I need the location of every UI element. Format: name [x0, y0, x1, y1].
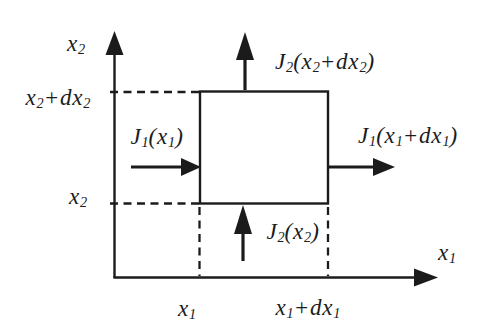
flux-label-j2-out: J2(x2+dx2) [275, 50, 375, 73]
x2-axis [106, 31, 124, 278]
flux-arrow-j1-in-head-icon [181, 158, 201, 176]
x2-axis-label: x2 [67, 32, 85, 55]
x1-axis-arrowhead-icon [414, 269, 438, 287]
flux-arrow-j2-out-head-icon [236, 32, 254, 60]
tick-label-x2-plus-dx2: x2+dx2 [26, 86, 91, 109]
flux-arrow-j1-in [131, 158, 201, 176]
flux-arrow-j2-in [234, 205, 252, 261]
flux-arrow-j1-out-head-icon [373, 158, 395, 176]
tick-label-x1: x1 [178, 297, 196, 320]
flux-control-volume-diagram: x2 x1 x2+dx2 x2 x1 x1+dx1 J1(x1) J1(x1+d… [0, 0, 490, 333]
flux-label-j1-in: J1(x1) [130, 125, 183, 148]
flux-label-j2-in: J2(x2) [266, 220, 319, 243]
tick-label-x1-plus-dx1: x1+dx1 [276, 296, 341, 319]
flux-arrow-j2-out [236, 32, 254, 90]
flux-arrow-j2-in-head-icon [234, 205, 252, 234]
x1-axis-label: x1 [438, 241, 456, 264]
x1-axis [114, 269, 439, 287]
flux-arrow-j1-out [329, 158, 395, 176]
tick-label-x2: x2 [69, 185, 87, 208]
x2-axis-arrowhead-icon [106, 31, 124, 55]
control-volume-box [200, 92, 328, 204]
flux-label-j1-out: J1(x1+dx1) [358, 124, 458, 147]
